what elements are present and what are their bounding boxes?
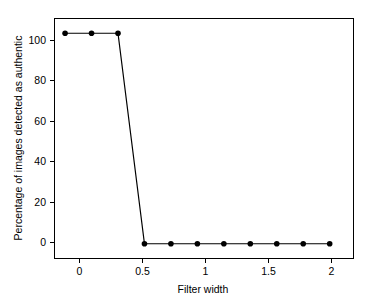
y-tick-label-0: 0 [40, 236, 46, 248]
y-tick-label-80: 80 [34, 74, 46, 86]
y-tick-label-60: 60 [34, 115, 46, 127]
data-point [248, 241, 254, 247]
data-point [300, 241, 306, 247]
line-chart: 0 20 40 60 80 100 0 0.5 1 1.5 2 Filter w… [0, 0, 372, 308]
x-tick-label-2: 2 [329, 265, 335, 277]
data-point [195, 241, 201, 247]
y-tick-label-40: 40 [34, 155, 46, 167]
x-tick-label-0p5: 0.5 [135, 265, 150, 277]
y-axis-tick-labels: 0 20 40 60 80 100 [28, 34, 46, 248]
y-tick-label-20: 20 [34, 196, 46, 208]
x-axis-ticks [80, 259, 332, 264]
data-point [142, 241, 148, 247]
x-tick-label-1p5: 1.5 [261, 265, 276, 277]
data-point [115, 30, 121, 36]
y-axis-title: Percentage of images detected as authent… [12, 36, 24, 241]
chart-figure: 0 20 40 60 80 100 0 0.5 1 1.5 2 Filter w… [0, 0, 372, 308]
data-point [221, 241, 227, 247]
plot-frame [55, 19, 354, 259]
y-axis-ticks [50, 41, 55, 243]
y-tick-label-100: 100 [28, 34, 46, 46]
data-point [89, 30, 95, 36]
data-point [168, 241, 174, 247]
x-tick-label-1: 1 [203, 265, 209, 277]
series-line [65, 33, 330, 244]
data-point [62, 30, 68, 36]
x-tick-label-0: 0 [77, 265, 83, 277]
data-series [62, 30, 332, 246]
x-axis-tick-labels: 0 0.5 1 1.5 2 [77, 265, 335, 277]
x-axis-title: Filter width [178, 283, 229, 295]
data-point [274, 241, 280, 247]
data-point [327, 241, 333, 247]
